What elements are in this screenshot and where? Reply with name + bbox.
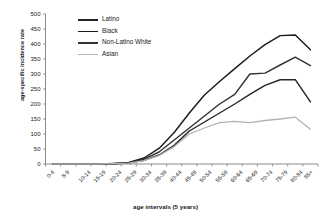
y-tick-label: 50	[17, 146, 41, 152]
legend-swatch-black	[78, 31, 98, 33]
y-tick-label: 250	[17, 86, 41, 92]
legend-label-non-latino-white: Non-Latino White	[102, 38, 151, 45]
legend-label-latino: Latino	[102, 15, 119, 22]
y-tick-label: 150	[17, 116, 41, 122]
legend-label-asian: Asian	[102, 50, 118, 57]
y-tick-label: 200	[17, 101, 41, 107]
y-tick-label: 0	[17, 161, 41, 167]
y-tick-label: 350	[17, 56, 41, 62]
y-tick-label: 450	[17, 26, 41, 32]
plot-area	[0, 0, 331, 219]
chart-container: age-specific incidence rate age interval…	[0, 0, 331, 219]
series-line-non-latino-white	[53, 57, 310, 164]
legend-swatch-asian	[78, 54, 98, 55]
y-tick-label: 300	[17, 71, 41, 77]
y-tick-label: 400	[17, 41, 41, 47]
y-tick-label: 500	[17, 11, 41, 17]
series-line-asian	[53, 117, 310, 164]
legend-swatch-non-latino-white	[78, 42, 98, 44]
legend-label-black: Black	[102, 27, 118, 34]
y-tick-label: 100	[17, 131, 41, 137]
legend-swatch-latino	[78, 19, 98, 21]
